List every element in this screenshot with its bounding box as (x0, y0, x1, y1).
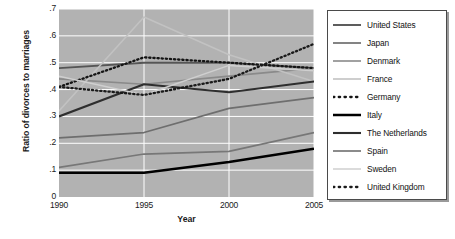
legend-label: Italy (367, 110, 382, 120)
legend-label: The Netherlands (367, 128, 427, 138)
chart-figure: Ratio of divorces to marriages 0.1.2.3.4… (0, 0, 455, 239)
plot-lines (59, 9, 314, 197)
legend-item-germany[interactable]: Germany (328, 88, 446, 106)
series-line-france (59, 17, 314, 111)
legend-swatch-icon (333, 74, 361, 84)
legend-label: Denmark (367, 56, 400, 66)
y-tick-label: .2 (38, 137, 56, 147)
series-line-denmark (59, 68, 314, 84)
y-tick-label: .7 (38, 3, 56, 13)
y-tick-label: .3 (38, 110, 56, 120)
legend-swatch-icon (333, 38, 361, 48)
legend-item-the-netherlands[interactable]: The Netherlands (328, 124, 446, 142)
legend-swatch-icon (333, 20, 361, 30)
x-axis-title: Year (59, 214, 314, 224)
y-tick-label: .1 (38, 164, 56, 174)
y-tick-label: .5 (38, 57, 56, 67)
legend-swatch-icon (333, 56, 361, 66)
legend-item-japan[interactable]: Japan (328, 34, 446, 52)
plot-area (59, 9, 314, 197)
legend-swatch-icon (333, 110, 361, 120)
legend-item-united-states[interactable]: United States (328, 16, 446, 34)
legend-swatch-icon (333, 164, 361, 174)
x-tick-label: 2000 (212, 200, 246, 210)
chart-legend: United StatesJapanDenmarkFranceGermanyIt… (327, 10, 447, 200)
legend-item-italy[interactable]: Italy (328, 106, 446, 124)
series-line-spain (59, 133, 314, 168)
legend-label: Japan (367, 38, 389, 48)
legend-item-united-kingdom[interactable]: United Kingdom (328, 178, 446, 196)
legend-label: France (367, 74, 392, 84)
legend-swatch-icon (333, 128, 361, 138)
legend-label: Germany (367, 92, 400, 102)
y-tick-label: .4 (38, 84, 56, 94)
x-tick-label: 1995 (127, 200, 161, 210)
legend-item-spain[interactable]: Spain (328, 142, 446, 160)
series-line-united-states (59, 63, 314, 68)
legend-item-france[interactable]: France (328, 70, 446, 88)
legend-label: United States (367, 20, 416, 30)
legend-label: Spain (367, 146, 388, 156)
legend-item-denmark[interactable]: Denmark (328, 52, 446, 70)
y-axis-title: Ratio of divorces to marriages (21, 21, 31, 161)
x-tick-label: 2005 (297, 200, 331, 210)
y-tick-label: .6 (38, 30, 56, 40)
legend-label: Sweden (367, 164, 396, 174)
series-line-japan (59, 98, 314, 138)
legend-label: United Kingdom (367, 182, 425, 192)
legend-swatch-icon (333, 146, 361, 156)
x-tick-label: 1990 (42, 200, 76, 210)
legend-swatch-icon (333, 92, 361, 102)
legend-swatch-icon (333, 182, 361, 192)
legend-item-sweden[interactable]: Sweden (328, 160, 446, 178)
